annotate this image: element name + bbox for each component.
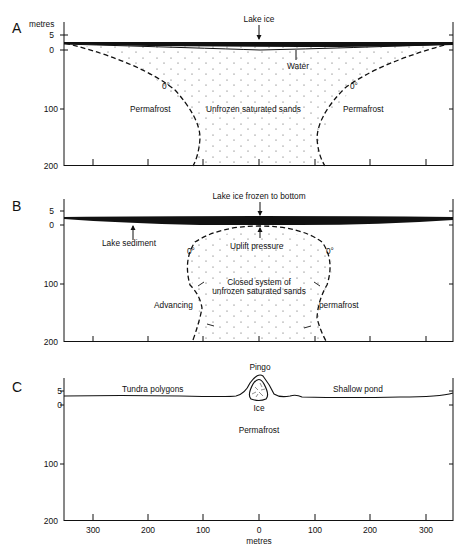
y-tick-100: 100: [44, 459, 58, 469]
label-pingo: Pingo: [249, 362, 271, 372]
label-isotherm-left: 0°: [187, 246, 195, 256]
x-tick-label: 100: [308, 525, 322, 535]
label-isotherm-right: 0°: [350, 81, 358, 91]
x-tick-label: 200: [363, 525, 377, 535]
label-isotherm-left: 0°: [162, 81, 170, 91]
y-tick-200: 200: [44, 161, 58, 171]
panel-b: B 5 0 100 200 Lake ice frozen to bottom: [12, 191, 453, 347]
label-permafrost-left: Permafrost: [130, 104, 171, 114]
x-tick-label: 200: [141, 525, 155, 535]
y-axis-unit-label: metres: [29, 19, 54, 29]
label-sands: Unfrozen saturated sands: [206, 104, 301, 114]
y-tick-5: 5: [49, 30, 54, 40]
x-tick-label: 0: [257, 525, 262, 535]
panel-label-a: A: [12, 20, 22, 36]
y-tick-200: 200: [44, 337, 58, 347]
y-tick-0: 0: [57, 400, 62, 410]
label-lake-sediment: Lake sediment: [102, 238, 157, 248]
label-water: Water: [287, 61, 309, 71]
pingo-formation-diagram: A metres 5 0 100 200: [0, 0, 461, 547]
label-isotherm-right: 0°: [326, 246, 334, 256]
label-permafrost: permafrost: [319, 300, 359, 310]
panel-label-b: B: [12, 198, 21, 214]
lake-ice-frozen: [64, 216, 453, 225]
y-tick-5: 5: [57, 386, 62, 396]
label-permafrost: Permafrost: [239, 425, 280, 435]
label-lake-ice: Lake ice: [244, 14, 275, 24]
label-shallow-pond: Shallow pond: [333, 384, 383, 394]
x-axis-unit-label: metres: [246, 536, 271, 546]
x-tick-label: 100: [196, 525, 210, 535]
x-tick-label: 300: [86, 525, 100, 535]
y-tick-0: 0: [49, 220, 54, 230]
label-lake-ice-frozen: Lake ice frozen to bottom: [212, 191, 305, 201]
panel-a: A metres 5 0 100 200: [12, 14, 453, 171]
label-advancing: Advancing: [154, 300, 193, 310]
label-closed-system-2: unfrozen saturated sands: [212, 286, 306, 296]
label-tundra-polygons: Tundra polygons: [122, 384, 184, 394]
y-tick-100: 100: [44, 104, 58, 114]
ice-core: [249, 380, 267, 401]
y-tick-200: 200: [44, 516, 58, 526]
y-tick-100: 100: [44, 279, 58, 289]
y-tick-0: 0: [49, 45, 54, 55]
x-ticks: [93, 514, 426, 520]
arrow-lake-ice: [258, 211, 263, 216]
y-tick-5: 5: [49, 206, 54, 216]
x-tick-label: 300: [419, 525, 433, 535]
panel-label-c: C: [12, 379, 22, 395]
label-ice: Ice: [253, 403, 264, 413]
x-tick-labels: 300 200 100 0 100 200 300: [86, 525, 433, 535]
label-uplift: Uplift pressure: [230, 241, 284, 251]
label-permafrost-right: Permafrost: [343, 104, 384, 114]
panel-c: C 5 0 100 200 Pingo Tundra po: [12, 362, 453, 546]
